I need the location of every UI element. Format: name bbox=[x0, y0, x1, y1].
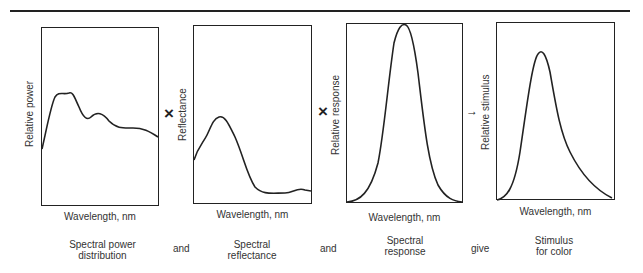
conjunction-and: and bbox=[173, 243, 190, 254]
conjunction-give: give bbox=[471, 243, 489, 254]
y-axis-label: Relative response bbox=[330, 75, 341, 155]
caption-spectral-response: Spectral response bbox=[365, 235, 445, 257]
spectral-power-plot bbox=[41, 27, 159, 206]
x-axis-label: Wavelength, nm bbox=[496, 206, 615, 217]
spectral-reflectance-plot bbox=[193, 25, 312, 204]
multiply-operator: × bbox=[164, 104, 174, 124]
panel-spectral-power: Relative power Wavelength, nm bbox=[41, 27, 159, 206]
caption-stimulus-for-color: Stimulus for color bbox=[514, 235, 594, 257]
arrow-right-icon: → bbox=[466, 104, 478, 118]
conjunction-and: and bbox=[320, 243, 337, 254]
panel-spectral-reflectance: Reflectance Wavelength, nm bbox=[193, 25, 312, 204]
stimulus-plot bbox=[496, 22, 615, 200]
caption-spectral-reflectance: Spectral reflectance bbox=[212, 239, 292, 261]
y-axis-label: Relative stimulus bbox=[480, 74, 491, 150]
x-axis-label: Wavelength, nm bbox=[41, 211, 159, 222]
multiply-operator: × bbox=[318, 102, 328, 122]
x-axis-label: Wavelength, nm bbox=[346, 212, 463, 223]
panel-stimulus-for-color: Relative stimulus Wavelength, nm bbox=[496, 22, 615, 200]
y-axis-label: Reflectance bbox=[177, 88, 188, 141]
top-rule bbox=[10, 10, 630, 12]
spectral-response-plot bbox=[346, 23, 463, 203]
y-axis-label: Relative power bbox=[24, 81, 35, 147]
panel-spectral-response: Relative response Wavelength, nm bbox=[346, 23, 463, 203]
caption-spectral-power: Spectral power distribution bbox=[55, 239, 150, 261]
x-axis-label: Wavelength, nm bbox=[193, 209, 312, 220]
